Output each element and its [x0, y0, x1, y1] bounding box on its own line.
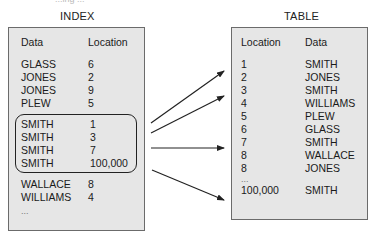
pointer-arrows — [0, 0, 378, 239]
arrow-smith-1 — [151, 71, 224, 123]
arrow-smith-100000 — [152, 170, 224, 200]
